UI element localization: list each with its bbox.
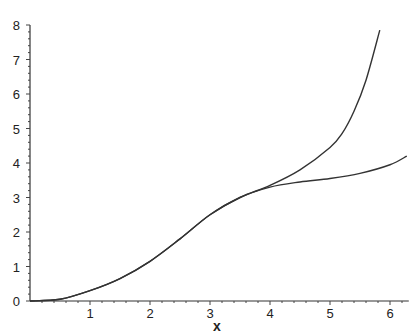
axes: 123456012345678: [13, 18, 409, 321]
curve-upper-line: [30, 30, 380, 301]
x-tick-label: 5: [326, 306, 333, 321]
curve-lower-line: [30, 156, 407, 301]
y-tick-label: 5: [13, 122, 20, 137]
y-tick-label: 4: [13, 156, 20, 171]
y-tick-label: 6: [13, 87, 20, 102]
y-tick-label: 8: [13, 18, 20, 33]
y-tick-label: 0: [13, 294, 20, 309]
line-chart: 123456012345678 x: [0, 0, 415, 336]
y-tick-label: 3: [13, 191, 20, 206]
x-tick-label: 4: [266, 306, 273, 321]
x-axis-label: x: [213, 318, 221, 334]
y-tick-label: 7: [13, 53, 20, 68]
x-tick-label: 6: [386, 306, 393, 321]
x-tick-label: 2: [146, 306, 153, 321]
y-tick-label: 2: [13, 225, 20, 240]
x-tick-label: 1: [86, 306, 93, 321]
y-tick-label: 1: [13, 260, 20, 275]
series-lines: [30, 30, 407, 301]
